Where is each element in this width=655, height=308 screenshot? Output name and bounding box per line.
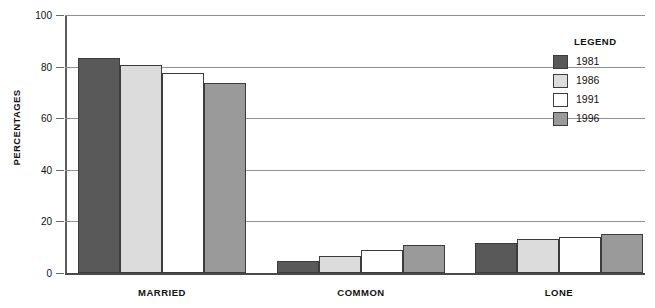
bar-married-1996 (204, 83, 246, 273)
y-tick-mark (56, 67, 64, 68)
bar-married-1981 (78, 58, 120, 273)
bar-married-1991 (162, 73, 204, 273)
bar-common-1981 (277, 261, 319, 273)
bar-lone-1991 (559, 237, 601, 273)
legend-items: 1981198619911996 (553, 52, 653, 128)
legend-swatch-1991 (553, 93, 568, 107)
legend-swatch-1981 (553, 55, 568, 69)
bar-married-1986 (120, 65, 162, 273)
bar-chart: PERCENTAGES 020406080100 MARRIEDCOMMONLO… (0, 0, 655, 308)
y-tick-mark (56, 170, 64, 171)
legend-label-1986: 1986 (576, 75, 599, 86)
y-tick-label: 60 (41, 113, 52, 124)
legend-label-1991: 1991 (576, 94, 599, 105)
legend-item-1991: 1991 (553, 90, 653, 109)
x-axis-label-common: COMMON (337, 287, 384, 298)
gridline (65, 15, 645, 16)
y-tick-mark (56, 221, 64, 222)
x-axis-label-lone: LONE (545, 287, 573, 298)
legend-label-1996: 1996 (576, 113, 599, 124)
y-tick-label: 80 (41, 61, 52, 72)
bar-lone-1981 (475, 243, 517, 273)
y-axis-title: PERCENTAGES (11, 68, 22, 188)
y-tick-label: 40 (41, 164, 52, 175)
y-tick-mark (56, 15, 64, 16)
legend-item-1981: 1981 (553, 52, 653, 71)
legend-item-1996: 1996 (553, 109, 653, 128)
legend: LEGEND 1981198619911996 (553, 36, 653, 128)
legend-label-1981: 1981 (576, 56, 599, 67)
y-axis-line (65, 15, 67, 273)
legend-swatch-1986 (553, 74, 568, 88)
x-axis-label-married: MARRIED (138, 287, 186, 298)
legend-swatch-1996 (553, 112, 568, 126)
legend-item-1986: 1986 (553, 71, 653, 90)
y-tick-mark (56, 118, 64, 119)
bar-common-1991 (361, 250, 403, 273)
y-tick-label: 100 (35, 10, 52, 21)
bar-common-1996 (403, 245, 445, 273)
y-tick-label: 20 (41, 216, 52, 227)
y-tick-mark (56, 273, 64, 274)
y-tick-label: 0 (46, 268, 52, 279)
legend-title: LEGEND (574, 36, 653, 47)
bar-lone-1986 (517, 239, 559, 273)
bar-common-1986 (319, 256, 361, 273)
bar-lone-1996 (601, 234, 643, 273)
